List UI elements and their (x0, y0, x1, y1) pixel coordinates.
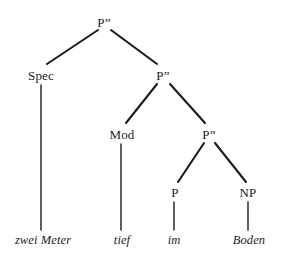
tree-node-t1: zwei Meter (15, 234, 71, 247)
tree-node-t2: tief (114, 234, 130, 247)
tree-edge-pbar3-np (215, 143, 246, 182)
syntax-tree-figure: P”SpecP”ModP”PNPzwei MetertiefimBoden (0, 0, 283, 260)
tree-node-spec: Spec (28, 69, 54, 82)
tree-edge-root-spec (47, 30, 98, 64)
tree-edge-pbar2-pbar3 (170, 84, 205, 123)
tree-node-t3: im (168, 234, 181, 247)
tree-node-pbar3: P” (202, 128, 215, 141)
tree-edge-root-pbar2 (111, 30, 157, 64)
tree-node-mod: Mod (109, 128, 134, 141)
tree-node-root: P” (97, 16, 110, 29)
tree-node-np: NP (239, 186, 256, 199)
tree-edge-pbar3-p (178, 143, 204, 182)
tree-edge-pbar2-mod (126, 84, 157, 123)
tree-edge-layer (0, 0, 283, 260)
tree-node-p: P (171, 186, 178, 199)
tree-node-pbar2: P” (156, 69, 169, 82)
tree-node-t4: Boden (233, 234, 265, 247)
